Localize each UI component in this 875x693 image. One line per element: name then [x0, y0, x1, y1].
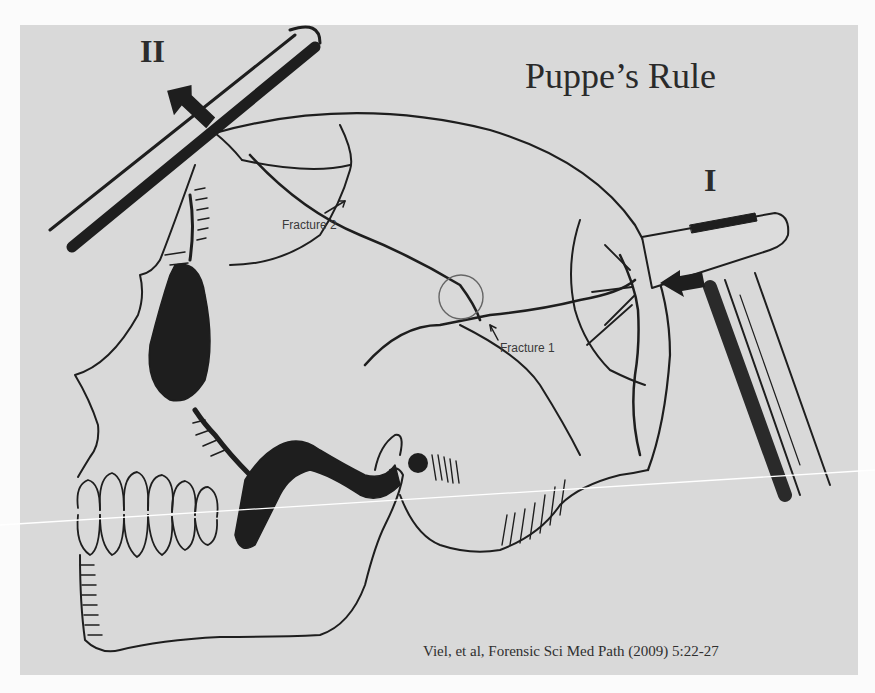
intersection-circle — [439, 275, 483, 319]
upper-teeth — [77, 472, 217, 517]
impact-label-i: I — [704, 162, 716, 199]
citation: Viel, et al, Forensic Sci Med Path (2009… — [423, 643, 719, 660]
rod-instrument — [50, 27, 320, 247]
fracture-2-line — [250, 155, 480, 320]
arrow-impact-2-icon — [162, 81, 220, 129]
ear-canal — [408, 453, 428, 473]
fracture-2-label: Fracture 2 — [282, 218, 337, 232]
slide-title: Puppe’s Rule — [525, 55, 716, 97]
eye-orbit — [149, 264, 210, 400]
lower-teeth — [78, 515, 218, 557]
fracture-1-label: Fracture 1 — [500, 341, 555, 355]
zygomatic-arch — [235, 441, 400, 548]
impact-label-ii: II — [140, 33, 165, 70]
slide: Puppe’s Rule II I Fracture 2 Fracture 1 … — [20, 25, 858, 675]
skull-diagram — [20, 25, 858, 675]
